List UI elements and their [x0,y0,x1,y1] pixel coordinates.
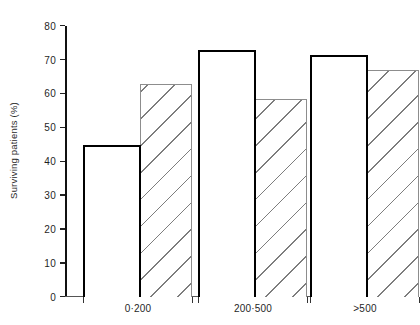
y-axis-tick-label: 30 [44,190,56,201]
y-axis-tick-label: 70 [44,54,56,65]
y-axis-tick: 80 [60,25,65,26]
y-axis-tick-label: 20 [44,223,56,234]
y-axis-tick-label: 60 [44,88,56,99]
bar-open-series [310,55,368,297]
y-axis-tick-label: 50 [44,122,56,133]
y-axis-tick-label: 40 [44,156,56,167]
x-axis-category-label: 200·500 [198,303,308,314]
x-axis-category-label: >500 [310,303,420,314]
bar-hatched-series [367,70,419,297]
x-axis-category-label: 0·200 [83,303,193,314]
y-axis-tick: 10 [60,262,65,263]
y-axis-tick: 60 [60,93,65,94]
bar-hatched-series [140,84,192,297]
y-axis-tick: 70 [60,59,65,60]
y-axis-tick-label: 80 [44,20,56,31]
y-axis-tick-label: 10 [44,257,56,268]
y-axis-line [65,26,67,297]
plot-area: 01020304050607080 0·200200·500>500 [65,20,385,298]
y-axis-tick: 50 [60,127,65,128]
bar-open-series [83,145,141,297]
y-axis-tick: 40 [60,161,65,162]
y-axis-title: Surviving patients (%) [0,0,26,300]
y-axis-tick: 30 [60,194,65,195]
y-axis-tick: 0 [60,296,65,297]
bar-hatched-series [255,99,307,297]
bar-open-series [198,50,256,297]
y-axis-tick-label: 0 [50,291,56,302]
y-axis-tick: 20 [60,228,65,229]
y-axis-title-text: Surviving patients (%) [8,102,19,199]
